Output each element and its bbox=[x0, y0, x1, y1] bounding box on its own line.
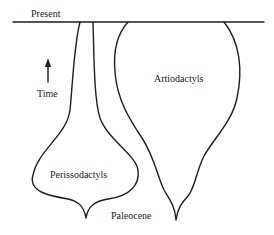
present-label: Present bbox=[31, 8, 61, 19]
diagram-canvas: Present Time Perissodactyls Artiodactyls… bbox=[0, 0, 274, 235]
perissodactyls-label: Perissodactyls bbox=[50, 169, 107, 180]
time-arrow-head-icon bbox=[45, 58, 51, 67]
time-label: Time bbox=[37, 88, 58, 99]
perissodactyls-spindle bbox=[32, 22, 138, 218]
artiodactyls-spindle bbox=[115, 22, 240, 220]
paleocene-label: Paleocene bbox=[111, 210, 152, 221]
artiodactyls-label: Artiodactyls bbox=[154, 73, 204, 84]
